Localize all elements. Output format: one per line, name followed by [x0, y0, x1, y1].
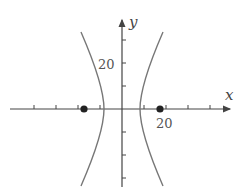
y-tick-label-20: 20	[98, 57, 115, 72]
hyperbola-chart: x y 20 20	[0, 0, 246, 187]
focus-right-point	[156, 105, 163, 112]
focus-left-point	[80, 105, 87, 112]
x-tick-label-20: 20	[156, 116, 173, 131]
y-axis-label: y	[128, 13, 138, 31]
x-axis-label: x	[225, 86, 234, 104]
